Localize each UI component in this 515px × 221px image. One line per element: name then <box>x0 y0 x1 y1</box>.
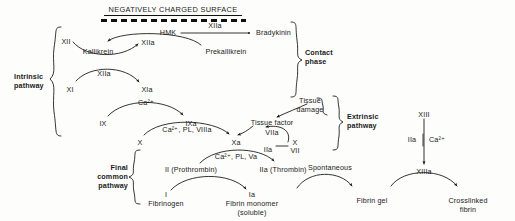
brace-extrinsic-pathway <box>333 96 343 150</box>
node-xiii: XIII <box>418 110 429 119</box>
node-xiiia: XIIIa <box>416 167 432 176</box>
node-crosslinked-fibrin: Crosslinked fibrin <box>448 196 487 214</box>
label-final-common-pathway: Final common pathway <box>84 163 128 191</box>
edge-label-spontaneous: Spontaneous <box>308 163 352 172</box>
edge-label-x-to-xa: Ca²⁺, PL, VIIIa <box>162 125 211 134</box>
node-x-intrinsic: X <box>138 138 143 147</box>
node-xii: XII <box>61 37 70 46</box>
brace-contact-phase <box>291 22 302 97</box>
coagulation-cascade-diagram: NEGATIVELY CHARGED SURFACE Intrinsic pat… <box>0 0 515 221</box>
node-hmk: HMK <box>160 28 176 37</box>
node-viia: VIIa <box>265 128 278 137</box>
edge-label-xiii-iia: IIa <box>408 135 416 144</box>
node-prekallikrein: Prekallikrein <box>205 47 246 56</box>
node-xa: Xa <box>231 138 240 147</box>
edge-label-xiii-calcium: Ca²⁺ <box>429 135 445 144</box>
edge-viia-to-xa <box>238 126 253 135</box>
brace-intrinsic-pathway <box>50 27 61 136</box>
label-extrinsic-pathway: Extrinsic pathway <box>347 112 379 130</box>
node-ix: IX <box>99 119 106 128</box>
edge-fibrinogen-to-fibrin-monomer <box>171 176 246 190</box>
node-xia: XIa <box>141 85 152 94</box>
node-tissue-damage: Tissue damage <box>297 96 324 114</box>
node-kallikrein: Kallikrein <box>83 47 114 56</box>
surface-dashed-line <box>101 19 246 22</box>
node-thrombin: IIa (Thrombin) <box>259 165 306 174</box>
node-xiia-contact: XIIa <box>141 38 154 47</box>
edge-label-prothrombin-to-thrombin: Ca²⁺, PL, Va <box>215 152 257 161</box>
edge-label-hmk-to-bradykinin: XIIa <box>208 21 221 30</box>
edge-label-iia-feedback: IIa <box>264 145 272 154</box>
edge-label-ix-to-ixa: Ca²⁺ <box>138 98 154 107</box>
edge-label-xi-to-xia: XIIa <box>97 69 110 78</box>
node-bradykinin: Bradykinin <box>256 28 291 37</box>
node-xi: XI <box>66 85 73 94</box>
node-tissue-factor: Tissue factor <box>251 118 294 127</box>
node-prothrombin: II (Prothrombin) <box>165 165 217 174</box>
label-intrinsic-pathway: Intrinsic pathway <box>14 72 44 90</box>
edge-fibrin-monomer-to-fibrin-gel <box>297 174 352 188</box>
node-fibrin-monomer: Ia Fibrin monomer (soluble) <box>226 190 278 218</box>
label-contact-phase: Contact phase <box>305 48 333 66</box>
node-fibrinogen: I Fibrinogen <box>148 190 183 208</box>
node-fibrin-gel: Fibrin gel <box>356 196 387 205</box>
negatively-charged-surface-label: NEGATIVELY CHARGED SURFACE <box>109 5 238 14</box>
brace-final-common-pathway <box>129 150 140 204</box>
node-vii: VII <box>290 146 299 155</box>
surface-underline <box>104 15 242 16</box>
